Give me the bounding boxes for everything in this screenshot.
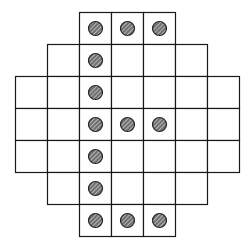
peg-icon[interactable] — [89, 22, 103, 36]
peg-icon[interactable] — [89, 54, 103, 68]
grid-cell[interactable] — [176, 109, 208, 141]
grid-cell[interactable] — [176, 45, 208, 77]
grid-cell[interactable] — [176, 141, 208, 173]
grid-cell[interactable] — [48, 77, 80, 109]
grid-cell[interactable] — [48, 109, 80, 141]
peg-icon[interactable] — [89, 150, 103, 164]
grid-cell[interactable] — [144, 45, 176, 77]
peg-icon[interactable] — [89, 86, 103, 100]
grid-cell[interactable] — [176, 173, 208, 205]
grid-cell[interactable] — [48, 173, 80, 205]
peg-icon[interactable] — [121, 214, 135, 228]
peg-board-diagram — [0, 0, 251, 247]
grid-cell[interactable] — [112, 45, 144, 77]
grid-cell[interactable] — [16, 77, 48, 109]
grid-cell[interactable] — [112, 173, 144, 205]
grid-cell[interactable] — [48, 141, 80, 173]
peg-icon[interactable] — [89, 214, 103, 228]
grid-cell[interactable] — [144, 141, 176, 173]
grid-cell[interactable] — [208, 77, 240, 109]
peg-icon[interactable] — [89, 118, 103, 132]
peg-icon[interactable] — [121, 22, 135, 36]
grid-cell[interactable] — [144, 173, 176, 205]
peg-icon[interactable] — [153, 22, 167, 36]
peg-icon[interactable] — [153, 118, 167, 132]
grid-cell[interactable] — [112, 141, 144, 173]
grid-cell[interactable] — [208, 141, 240, 173]
peg-icon[interactable] — [153, 214, 167, 228]
peg-icon[interactable] — [121, 118, 135, 132]
grid-cell[interactable] — [176, 77, 208, 109]
grid-cell[interactable] — [48, 45, 80, 77]
grid-cell[interactable] — [144, 77, 176, 109]
grid-cell[interactable] — [208, 109, 240, 141]
peg-icon[interactable] — [89, 182, 103, 196]
grid-cell[interactable] — [16, 141, 48, 173]
grid-cell[interactable] — [16, 109, 48, 141]
grid-cell[interactable] — [112, 77, 144, 109]
